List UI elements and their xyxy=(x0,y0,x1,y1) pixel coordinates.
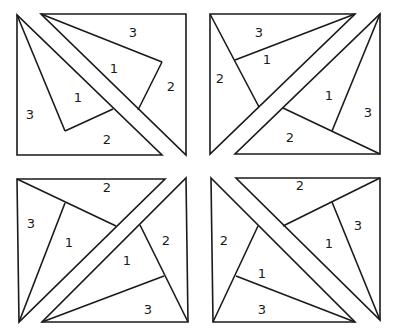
triangle-puzzle-diagram: 312132312132231213232113 xyxy=(0,0,393,333)
region-label: 3 xyxy=(27,216,35,231)
region-label: 3 xyxy=(26,107,34,122)
region-labels: 312132312132231213232113 xyxy=(26,25,372,317)
panel-top-right xyxy=(210,14,380,154)
region-label: 1 xyxy=(65,235,73,250)
region-label: 1 xyxy=(110,61,118,76)
region-label: 3 xyxy=(129,25,137,40)
region-label: 2 xyxy=(167,79,175,94)
region-label: 3 xyxy=(255,25,263,40)
region-label: 2 xyxy=(296,178,304,193)
region-label: 1 xyxy=(325,88,333,103)
panel-bottom-right xyxy=(211,178,380,322)
region-label: 3 xyxy=(354,218,362,233)
region-label: 2 xyxy=(103,180,111,195)
region-label: 3 xyxy=(258,302,266,317)
region-label: 3 xyxy=(364,105,372,120)
region-label: 2 xyxy=(216,71,224,86)
region-label: 1 xyxy=(258,266,266,281)
region-label: 1 xyxy=(325,236,333,251)
region-label: 2 xyxy=(220,233,228,248)
region-label: 1 xyxy=(263,52,271,67)
region-label: 1 xyxy=(123,253,131,268)
region-label: 2 xyxy=(103,132,111,147)
region-label: 1 xyxy=(74,90,82,105)
panel-top-left xyxy=(17,14,186,155)
panel-bottom-left xyxy=(17,178,188,322)
region-label: 2 xyxy=(286,130,294,145)
region-label: 3 xyxy=(144,302,152,317)
region-label: 2 xyxy=(162,233,170,248)
